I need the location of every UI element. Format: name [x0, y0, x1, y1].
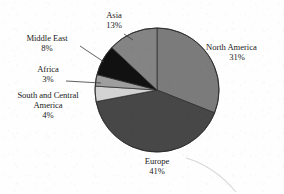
leader-line-middle-east — [80, 46, 104, 62]
slice-label-south-central-america-name-line2: America — [2, 100, 94, 110]
slice-label-europe-value: 41% — [133, 166, 181, 176]
slice-label-africa-value: 3% — [30, 74, 66, 84]
slice-label-north-america-value: 31% — [206, 52, 268, 62]
slice-label-middle-east: Middle East 8% — [16, 33, 78, 53]
slice-label-north-america: North America 31% — [206, 42, 268, 62]
slice-label-europe: Europe 41% — [133, 156, 181, 176]
slice-label-europe-name: Europe — [133, 156, 181, 166]
leader-line-europe-arc — [186, 158, 236, 192]
slice-label-south-central-america-value: 4% — [2, 110, 94, 120]
slice-label-north-america-name: North America — [206, 42, 268, 52]
slice-label-asia-value: 13% — [96, 20, 132, 30]
slice-label-africa: Africa 3% — [30, 64, 66, 84]
slice-label-asia-name: Asia — [96, 10, 132, 20]
slice-label-south-central-america: South and Central America 4% — [2, 90, 94, 121]
slice-label-middle-east-value: 8% — [16, 43, 78, 53]
slice-label-south-central-america-name-line1: South and Central — [2, 90, 94, 100]
slice-label-asia: Asia 13% — [96, 10, 132, 30]
slice-label-middle-east-name: Middle East — [16, 33, 78, 43]
pie-chart-figure: North America 31% Asia 13% Middle East 8… — [0, 0, 284, 194]
slice-label-africa-name: Africa — [30, 64, 66, 74]
pie-slices-group — [95, 28, 219, 152]
